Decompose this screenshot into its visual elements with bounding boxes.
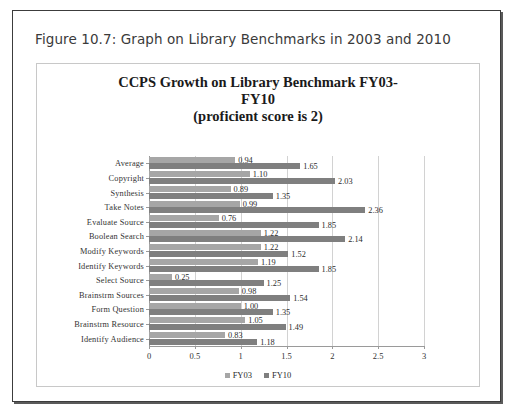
- x-axis-tick: [195, 346, 196, 349]
- x-axis-tick: [287, 346, 288, 349]
- category-label: Select Source: [96, 276, 144, 285]
- bar-group: Identify Audience0.831.18: [149, 331, 424, 346]
- category-label: Take Notes: [105, 203, 144, 212]
- figure-frame: Figure 10.7: Graph on Library Benchmarks…: [12, 10, 501, 402]
- bar-group: Form Question1.001.35: [149, 302, 424, 317]
- bar-group: Select Source0.251.25: [149, 273, 424, 288]
- bar-fy03: 1.05: [149, 317, 245, 323]
- bar-group: Take Notes0.992.36: [149, 200, 424, 215]
- bar-fy03: 0.98: [149, 288, 239, 294]
- bar-fy03: 1.22: [149, 244, 261, 250]
- category-label: Average: [115, 159, 144, 168]
- bar-group: Copyright1.102.03: [149, 171, 424, 186]
- category-label: Brainstrm Sources: [79, 290, 144, 299]
- bar-value-label: 1.85: [322, 264, 337, 273]
- bar-fy10: 1.85: [149, 266, 319, 272]
- bar-fy10: 1.35: [149, 309, 273, 315]
- bar-fy03: 0.25: [149, 274, 172, 280]
- bar-group: Modify Keywords1.221.52: [149, 244, 424, 259]
- legend-item-fy03[interactable]: FY03: [225, 370, 252, 380]
- x-axis-tick-label: 1: [239, 351, 243, 361]
- x-axis-tick: [241, 346, 242, 349]
- x-axis-tick-label: 0.5: [190, 351, 201, 361]
- bar-fy03: 0.76: [149, 215, 219, 221]
- legend-item-fy10[interactable]: FY10: [264, 370, 291, 380]
- bar-value-label: 1.35: [276, 191, 291, 200]
- x-axis-tick: [424, 346, 425, 349]
- x-axis-tick-label: 2: [330, 351, 334, 361]
- category-label: Synthesis: [110, 188, 144, 197]
- plot-area: Average0.941.65Copyright1.102.03Synthesi…: [149, 156, 424, 346]
- bar-group: Evaluate Source0.761.85: [149, 214, 424, 229]
- legend-swatch-icon: [264, 373, 269, 378]
- category-label: Copyright: [109, 173, 144, 182]
- category-label: Brainstrm Resource: [74, 320, 144, 329]
- x-axis-tick: [378, 346, 379, 349]
- bar-fy10: 1.35: [149, 193, 273, 199]
- legend-swatch-icon: [225, 373, 230, 378]
- bar-value-label: 1.65: [303, 162, 318, 171]
- x-axis-tick-label: 3: [422, 351, 426, 361]
- bar-group: Average0.941.65: [149, 156, 424, 171]
- category-label: Identify Keywords: [78, 261, 144, 270]
- category-label: Form Question: [91, 305, 144, 314]
- category-label: Identify Audience: [81, 334, 144, 343]
- bar-value-label: 1.35: [276, 308, 291, 317]
- chart-title: CCPS Growth on Library Benchmark FY03-FY…: [37, 74, 479, 125]
- bar-fy03: 1.00: [149, 303, 241, 309]
- bar-fy10: 2.03: [149, 178, 335, 184]
- category-label: Boolean Search: [89, 232, 144, 241]
- legend-label: FY03: [233, 370, 252, 380]
- bar-value-label: 1.18: [260, 337, 275, 346]
- category-label: Modify Keywords: [80, 246, 144, 255]
- x-axis: [149, 346, 425, 347]
- legend-label: FY10: [272, 370, 291, 380]
- x-axis-tick-label: 0: [147, 351, 151, 361]
- x-axis-tick: [332, 346, 333, 349]
- x-axis-tick-label: 2.5: [373, 351, 384, 361]
- bar-fy10: 1.49: [149, 324, 286, 330]
- bar-fy10: 1.85: [149, 222, 319, 228]
- bar-group: Identify Keywords1.191.85: [149, 258, 424, 273]
- bar-fy03: 1.22: [149, 230, 261, 236]
- bar-fy03: 0.83: [149, 332, 225, 338]
- chart-title-line-1: CCPS Growth on Library Benchmark FY03-FY…: [37, 74, 479, 108]
- gridline-3: [424, 156, 425, 346]
- bar-fy10: 1.52: [149, 251, 288, 257]
- bar-fy03: 0.94: [149, 157, 235, 163]
- chart-legend: FY03FY10: [37, 370, 479, 380]
- bar-fy10: 1.25: [149, 280, 264, 286]
- bar-fy03: 0.89: [149, 186, 231, 192]
- bar-group: Brainstrm Resource1.051.49: [149, 317, 424, 332]
- chart-container: CCPS Growth on Library Benchmark FY03-FY…: [36, 63, 480, 387]
- bar-fy03: 1.19: [149, 259, 258, 265]
- bar-value-label: 1.54: [293, 293, 308, 302]
- bar-value-label: 1.85: [322, 220, 337, 229]
- x-axis-tick: [149, 346, 150, 349]
- category-label: Evaluate Source: [87, 217, 144, 226]
- bar-fy10: 2.14: [149, 236, 345, 242]
- bar-group: Brainstrm Sources0.981.54: [149, 288, 424, 303]
- bar-value-label: 2.36: [368, 206, 383, 215]
- bar-group: Synthesis0.891.35: [149, 185, 424, 200]
- bar-fy10: 1.65: [149, 163, 300, 169]
- bar-value-label: 1.52: [291, 249, 306, 258]
- bar-fy10: 1.54: [149, 295, 290, 301]
- bar-fy03: 0.99: [149, 201, 240, 207]
- bar-fy10: 1.18: [149, 339, 257, 345]
- x-axis-tick-label: 1.5: [281, 351, 292, 361]
- bar-group: Boolean Search1.222.14: [149, 229, 424, 244]
- bar-value-label: 2.03: [338, 176, 353, 185]
- figure-caption: Figure 10.7: Graph on Library Benchmarks…: [35, 31, 485, 47]
- chart-title-line-2: (proficient score is 2): [37, 108, 479, 125]
- bar-value-label: 1.49: [289, 323, 304, 332]
- bar-fy10: 2.36: [149, 207, 365, 213]
- bar-value-label: 1.25: [267, 279, 282, 288]
- bar-value-label: 2.14: [348, 235, 363, 244]
- bar-fy03: 1.10: [149, 171, 250, 177]
